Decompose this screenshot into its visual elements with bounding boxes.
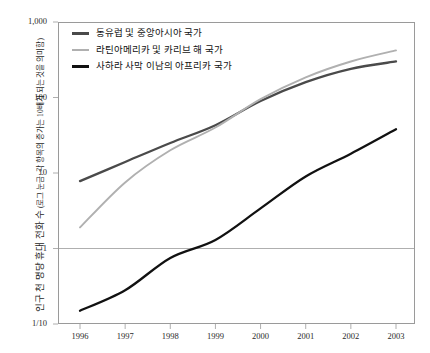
cellphone-log-line-chart: 1,0001001011/10 199619971998199920002001… bbox=[0, 0, 430, 353]
legend-label: 라틴아메리카 및 카리브 해 국가 bbox=[96, 45, 223, 55]
y-tick-label: 1,000 bbox=[13, 17, 47, 26]
legend-swatch-icon bbox=[72, 65, 89, 68]
y-tick-label: 1/10 bbox=[13, 319, 47, 328]
series-line-1 bbox=[80, 50, 396, 227]
chart-legend: 동유럽 및 중앙아시아 국가라틴아메리카 및 카리브 해 국가사하라 사막 이남… bbox=[72, 28, 232, 71]
legend-item: 사하라 사막 이남의 아프리카 국가 bbox=[72, 61, 232, 71]
y-tick-label: 100 bbox=[13, 93, 47, 102]
x-tick-label: 2001 bbox=[286, 332, 326, 341]
legend-swatch-icon bbox=[72, 49, 89, 51]
x-tick-label: 2000 bbox=[241, 332, 281, 341]
series-line-0 bbox=[80, 61, 396, 181]
x-tick-label: 1999 bbox=[195, 332, 235, 341]
y-tick-label: 10 bbox=[13, 168, 47, 177]
legend-item: 동유럽 및 중앙아시아 국가 bbox=[72, 28, 232, 38]
series-lines bbox=[80, 50, 396, 310]
legend-swatch-icon bbox=[72, 32, 89, 35]
x-tick-label: 1998 bbox=[150, 332, 190, 341]
x-tick-label: 2002 bbox=[331, 332, 371, 341]
legend-label: 사하라 사막 이남의 아프리카 국가 bbox=[96, 61, 232, 71]
y-tick-label: 1 bbox=[13, 244, 47, 253]
legend-item: 라틴아메리카 및 카리브 해 국가 bbox=[72, 45, 232, 55]
series-line-2 bbox=[80, 129, 396, 310]
x-tick-label: 2003 bbox=[376, 332, 416, 341]
legend-label: 동유럽 및 중앙아시아 국가 bbox=[96, 28, 202, 38]
x-tick-label: 1996 bbox=[60, 332, 100, 341]
x-tick-label: 1997 bbox=[105, 332, 145, 341]
